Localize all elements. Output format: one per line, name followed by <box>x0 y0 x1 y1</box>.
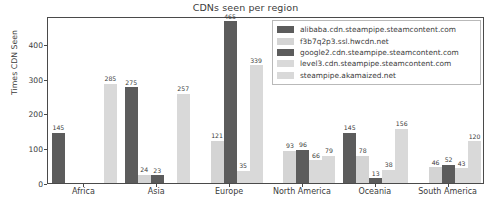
x-axis-tick-label: Africa <box>72 187 95 196</box>
bar-slot: 121 <box>211 18 224 183</box>
x-axis-tick-label: North America <box>273 187 331 196</box>
y-axis-tick-label: 0 <box>3 180 43 189</box>
legend-item[interactable]: google2.cdn.steampipe.steamcontent.com <box>277 47 475 58</box>
bar-value-label: 275 <box>125 79 137 86</box>
x-axis-tick-labels: AfricaAsiaEuropeNorth AmericaOceaniaSout… <box>47 187 484 203</box>
legend-swatch-icon <box>277 38 294 45</box>
legend-swatch-icon <box>277 60 294 67</box>
bar-slot: 35 <box>237 18 250 183</box>
bar-value-label: 52 <box>445 156 453 163</box>
bar[interactable] <box>395 129 408 183</box>
bar-slot: 257 <box>177 18 190 183</box>
bar-slot: 24 <box>138 18 151 183</box>
bar-slot: 275 <box>125 18 138 183</box>
legend-swatch-icon <box>277 72 294 79</box>
bar-value-label: 43 <box>458 160 466 167</box>
chart-title: CDNs seen per region <box>0 2 491 13</box>
x-axis-tick-mark <box>448 184 449 187</box>
bar-value-label: 66 <box>312 152 320 159</box>
bar[interactable] <box>296 150 309 183</box>
bar-value-label: 78 <box>359 147 367 154</box>
bar-value-label: 120 <box>469 133 481 140</box>
legend-swatch-icon <box>277 26 294 33</box>
bar-group: 2752423257 <box>125 18 190 183</box>
y-axis-tick-label: 400 <box>3 40 43 49</box>
y-axis-tick-label: 300 <box>3 75 43 84</box>
bar[interactable] <box>356 156 369 183</box>
legend-label: alibaba.cdn.steampipe.steamcontent.com <box>300 25 456 34</box>
bar-value-label: 79 <box>325 147 333 154</box>
bar[interactable] <box>429 167 442 183</box>
bar-value-label: 339 <box>250 57 262 64</box>
bar[interactable] <box>224 21 237 183</box>
bar[interactable] <box>369 178 382 183</box>
bar-value-label: 121 <box>211 132 223 139</box>
bar-value-label: 257 <box>177 85 189 92</box>
bar[interactable] <box>211 141 224 183</box>
bar-value-label: 23 <box>153 167 161 174</box>
bar-value-label: 96 <box>299 141 307 148</box>
bar-group: 145285 <box>52 18 117 183</box>
bar-value-label: 156 <box>396 120 408 127</box>
bar[interactable] <box>343 133 356 183</box>
bar[interactable] <box>309 160 322 183</box>
bar[interactable] <box>382 170 395 183</box>
y-axis-tick-label: 200 <box>3 110 43 119</box>
bar[interactable] <box>237 171 250 183</box>
bar[interactable] <box>104 84 117 183</box>
bar-value-label: 285 <box>105 75 117 82</box>
x-axis-tick-mark <box>83 184 84 187</box>
x-axis-tick-mark <box>229 184 230 187</box>
bar[interactable] <box>177 94 190 183</box>
y-axis-tick-mark <box>44 184 47 185</box>
legend-label: f3b7q2p3.ssl.hwcdn.net <box>300 37 389 46</box>
bar[interactable] <box>455 168 468 183</box>
bar-slot: 145 <box>52 18 65 183</box>
bar-value-label: 38 <box>385 161 393 168</box>
bar-slot: 285 <box>104 18 117 183</box>
legend-item[interactable]: f3b7q2p3.ssl.hwcdn.net <box>277 35 475 46</box>
bar[interactable] <box>322 156 335 183</box>
bar[interactable] <box>250 65 263 183</box>
bar-value-label: 46 <box>432 159 440 166</box>
bar[interactable] <box>283 151 296 183</box>
legend-item[interactable]: alibaba.cdn.steampipe.steamcontent.com <box>277 24 475 35</box>
y-axis-tick-label: 100 <box>3 145 43 154</box>
legend-label: steampipe.akamaized.net <box>300 71 396 80</box>
chart-legend: alibaba.cdn.steampipe.steamcontent.comf3… <box>272 20 481 85</box>
bar[interactable] <box>442 165 455 183</box>
x-axis-tick-label: Oceania <box>358 187 391 196</box>
bar-slot: 465 <box>224 18 237 183</box>
bar-slot: 339 <box>250 18 263 183</box>
bar-chart-figure: CDNs seen per region Times CDN Seen 0100… <box>0 0 491 212</box>
bar-value-label: 93 <box>286 142 294 149</box>
bar-value-label: 465 <box>224 13 236 20</box>
bar-value-label: 145 <box>53 124 65 131</box>
bar[interactable] <box>151 175 164 183</box>
x-axis-tick-label: Europe <box>215 187 243 196</box>
x-axis-tick-mark <box>302 184 303 187</box>
bar-value-label: 13 <box>372 170 380 177</box>
bar[interactable] <box>125 87 138 183</box>
x-axis-tick-label: Asia <box>148 187 165 196</box>
bar[interactable] <box>52 133 65 183</box>
bar-group: 12146535339 <box>198 18 263 183</box>
bar-value-label: 35 <box>239 162 247 169</box>
bar-slot: 23 <box>151 18 164 183</box>
bar-value-label: 24 <box>140 166 148 173</box>
x-axis-tick-mark <box>375 184 376 187</box>
x-axis-tick-label: South America <box>418 187 477 196</box>
legend-label: google2.cdn.steampipe.steamcontent.com <box>300 48 459 57</box>
bar[interactable] <box>138 175 151 183</box>
legend-item[interactable]: level3.cdn.steampipe.steamcontent.com <box>277 58 475 69</box>
x-axis-tick-mark <box>156 184 157 187</box>
legend-label: level3.cdn.steampipe.steamcontent.com <box>300 59 451 68</box>
bar-value-label: 145 <box>344 124 356 131</box>
legend-item[interactable]: steampipe.akamaized.net <box>277 70 475 81</box>
bar[interactable] <box>468 141 481 183</box>
y-axis-tick-labels: 0100200300400 <box>0 17 43 184</box>
legend-swatch-icon <box>277 49 294 56</box>
